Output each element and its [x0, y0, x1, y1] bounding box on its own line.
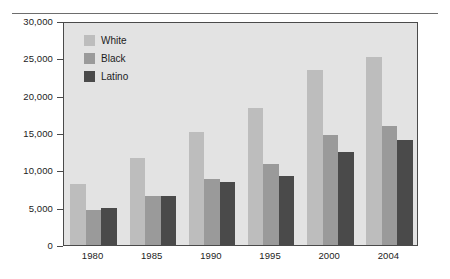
y-tick-label: 10,000 [0, 165, 53, 176]
legend-swatch-white [84, 35, 95, 46]
x-tick-label: 2004 [358, 250, 418, 261]
y-tick-label: 0 [0, 240, 53, 251]
bar-black-1980 [86, 210, 102, 245]
y-tick-label: 30,000 [0, 16, 53, 27]
y-tick-label: 5,000 [0, 203, 53, 214]
bar-black-2000 [323, 135, 339, 245]
y-tick-label: 15,000 [0, 128, 53, 139]
bar-white-1980 [70, 184, 86, 245]
x-tick-label: 1980 [63, 250, 123, 261]
bar-latino-1990 [220, 182, 236, 245]
x-tick-label: 1990 [181, 250, 241, 261]
legend-swatch-black [84, 53, 95, 64]
chart-figure: 05,00010,00015,00020,00025,00030,000 198… [0, 0, 450, 279]
bar-black-1995 [263, 164, 279, 245]
bar-latino-2004 [397, 140, 413, 245]
bar-white-1995 [248, 108, 264, 245]
bar-latino-1995 [279, 176, 295, 245]
top-divider-rule [12, 13, 438, 14]
bar-latino-1980 [101, 208, 117, 245]
bar-white-2004 [366, 57, 382, 245]
bar-black-1990 [204, 179, 220, 245]
y-tick-mark [57, 246, 63, 247]
legend-label-latino: Latino [101, 71, 128, 82]
bar-black-1985 [145, 196, 161, 245]
chart-legend: White Black Latino [84, 33, 128, 87]
legend-item: White [84, 33, 128, 48]
bar-latino-2000 [338, 152, 354, 245]
legend-label-white: White [101, 35, 127, 46]
y-tick-label: 20,000 [0, 91, 53, 102]
y-tick-label: 25,000 [0, 53, 53, 64]
bar-white-1990 [189, 132, 205, 245]
bar-white-1985 [130, 158, 146, 245]
x-tick-label: 1985 [122, 250, 182, 261]
legend-item: Latino [84, 69, 128, 84]
legend-label-black: Black [101, 53, 125, 64]
bar-white-2000 [307, 70, 323, 245]
x-tick-label: 2000 [299, 250, 359, 261]
legend-swatch-latino [84, 71, 95, 82]
bar-black-2004 [382, 126, 398, 245]
bar-latino-1985 [161, 196, 177, 245]
x-tick-label: 1995 [240, 250, 300, 261]
legend-item: Black [84, 51, 128, 66]
